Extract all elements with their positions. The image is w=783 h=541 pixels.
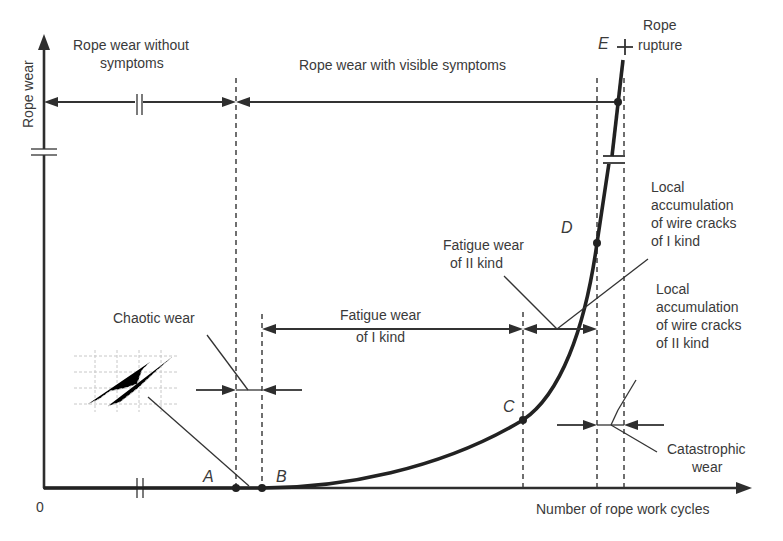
local-cracks-I-line4: of I kind (651, 233, 700, 249)
point-B-label: B (276, 468, 287, 485)
region-without-symptoms-line1: Rope wear without (73, 37, 189, 53)
inset-leader-line (148, 397, 249, 486)
phase-boundaries (236, 78, 624, 488)
arrow-left-icon (236, 97, 250, 107)
point-E-label: E (598, 35, 609, 52)
point-B-marker (258, 484, 266, 492)
rope-wear-diagram: Rope wear 0 Number of rope work cycles R… (0, 0, 783, 541)
inset-grid-sketch (74, 350, 178, 412)
local-cracks-II-line3: of wire cracks (656, 317, 742, 333)
region-visible-symptoms: Rope wear with visible symptoms (299, 57, 506, 73)
origin-label: 0 (36, 499, 44, 515)
region-dimension-line (44, 94, 618, 115)
point-D-label: D (561, 219, 573, 236)
point-A-marker (232, 484, 240, 492)
local-cracks-II-line4: of II kind (656, 335, 709, 351)
local-cracks-II-line1: Local (656, 281, 689, 297)
chaotic-wear-indicator (196, 335, 302, 395)
point-A-label: A (202, 468, 214, 485)
local-cracks-I-line2: accumulation (651, 197, 734, 213)
y-axis-arrow-icon (38, 34, 50, 50)
wear-curve-upper (612, 60, 623, 156)
arrow-left-icon (44, 97, 58, 107)
region-without-symptoms-line2: symptoms (100, 55, 164, 71)
arrow-right-icon (222, 97, 236, 107)
rupture-intersection-marker (614, 98, 622, 106)
rope-rupture-line2: rupture (638, 37, 683, 53)
local-cracks-I-line1: Local (651, 179, 684, 195)
fatigue-I-line1: Fatigue wear (340, 307, 421, 323)
x-axis-label: Number of rope work cycles (536, 501, 710, 517)
fatigue-II-line1: Fatigue wear (443, 237, 524, 253)
local-cracks-I-line3: of wire cracks (651, 215, 737, 231)
y-axis-label: Rope wear (20, 60, 36, 128)
catastrophic-line2: wear (691, 459, 723, 475)
y-axis-break-icon (30, 149, 58, 155)
rope-rupture-line1: Rope (643, 17, 677, 33)
fatigue-II-line2: of II kind (450, 255, 503, 271)
local-cracks-II-line2: accumulation (656, 299, 739, 315)
catastrophic-dimension (557, 380, 664, 452)
fatigue-I-line2: of I kind (356, 329, 405, 345)
point-C-label: C (503, 398, 515, 415)
chaotic-wear-label: Chaotic wear (113, 310, 195, 326)
point-E-marker-icon (617, 39, 633, 55)
point-D-marker (593, 239, 601, 247)
point-C-marker (519, 416, 527, 424)
fatigue-II-dimension (504, 259, 648, 334)
x-axis-arrow-icon (736, 482, 752, 494)
catastrophic-line1: Catastrophic (667, 441, 746, 457)
